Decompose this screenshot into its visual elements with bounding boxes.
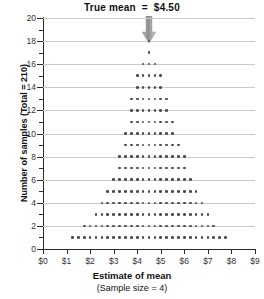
data-point (212, 236, 215, 239)
y-axis-tick-label: 6 (12, 175, 36, 185)
data-point (130, 121, 133, 124)
x-axis-tick-label: $8 (218, 256, 244, 266)
data-point (171, 213, 174, 216)
data-point (189, 236, 192, 239)
x-axis-tick (137, 249, 138, 254)
data-point (177, 213, 180, 216)
y-axis-tick-label: 4 (12, 198, 36, 208)
data-point (124, 225, 127, 228)
data-point (124, 178, 127, 181)
data-point (165, 225, 168, 228)
x-axis-line (43, 249, 256, 250)
data-point (124, 155, 127, 158)
y-axis-minor-tick (39, 168, 43, 169)
data-point (171, 144, 174, 147)
data-point (142, 190, 145, 193)
data-point (130, 190, 133, 193)
data-point (207, 213, 210, 216)
data-point (124, 167, 127, 170)
data-point (142, 236, 145, 239)
data-point (159, 109, 162, 112)
data-point (159, 190, 162, 193)
data-point (136, 167, 139, 170)
data-point (148, 74, 151, 77)
dot-plot-figure: True mean = $4.50 Number of samples (Tot… (0, 0, 264, 299)
data-point (118, 213, 121, 216)
data-point (142, 121, 145, 124)
data-point (118, 167, 121, 170)
data-point (124, 236, 127, 239)
data-point (183, 167, 186, 170)
data-point (148, 213, 151, 216)
y-axis-minor-tick (39, 191, 43, 192)
data-point (142, 144, 145, 147)
data-point (165, 132, 168, 135)
data-point (130, 225, 133, 228)
data-point (165, 202, 168, 205)
data-point (171, 225, 174, 228)
x-axis-tick-label: $0 (30, 256, 56, 266)
y-axis-tick (37, 134, 43, 135)
x-axis-tick-label: $9 (242, 256, 264, 266)
data-point (154, 121, 157, 124)
x-axis-tick (90, 249, 91, 254)
data-point (142, 74, 145, 77)
data-point (154, 144, 157, 147)
data-point (154, 109, 157, 112)
data-point (165, 213, 168, 216)
data-point (159, 86, 162, 89)
plot-area (43, 18, 255, 249)
data-point (177, 202, 180, 205)
data-point (154, 236, 157, 239)
x-axis-tick (231, 249, 232, 254)
y-axis-tick (37, 87, 43, 88)
data-point (201, 236, 204, 239)
data-point (130, 144, 133, 147)
data-point (159, 202, 162, 205)
data-point (183, 225, 186, 228)
data-point (136, 225, 139, 228)
data-point (183, 178, 186, 181)
data-point (177, 144, 180, 147)
data-point (148, 167, 151, 170)
data-point (118, 155, 121, 158)
data-point (130, 155, 133, 158)
data-point (177, 225, 180, 228)
data-point (136, 121, 139, 124)
data-point (142, 98, 145, 101)
y-axis-tick (37, 226, 43, 227)
data-point (159, 236, 162, 239)
data-point (148, 51, 151, 54)
data-point (124, 202, 127, 205)
data-point (171, 167, 174, 170)
data-point (148, 121, 151, 124)
x-axis-tick (67, 249, 68, 254)
data-point (154, 213, 157, 216)
data-point (159, 213, 162, 216)
data-point (130, 167, 133, 170)
data-point (195, 236, 198, 239)
x-axis-tick (114, 249, 115, 254)
data-point (124, 132, 127, 135)
data-point (195, 213, 198, 216)
y-axis-tick-label: 10 (12, 129, 36, 139)
y-axis-minor-tick (39, 76, 43, 77)
y-axis-tick-label: 20 (12, 13, 36, 23)
data-point (159, 121, 162, 124)
data-point (177, 167, 180, 170)
data-point (165, 121, 168, 124)
data-point (136, 213, 139, 216)
data-point (136, 202, 139, 205)
data-point (142, 213, 145, 216)
x-axis-tick (161, 249, 162, 254)
data-point (171, 202, 174, 205)
data-point (159, 167, 162, 170)
data-point (130, 132, 133, 135)
data-point (130, 109, 133, 112)
data-point (112, 202, 115, 205)
data-point (171, 121, 174, 124)
data-point (207, 236, 210, 239)
x-axis-tick-label: $2 (77, 256, 103, 266)
data-point (183, 190, 186, 193)
data-point (224, 236, 227, 239)
